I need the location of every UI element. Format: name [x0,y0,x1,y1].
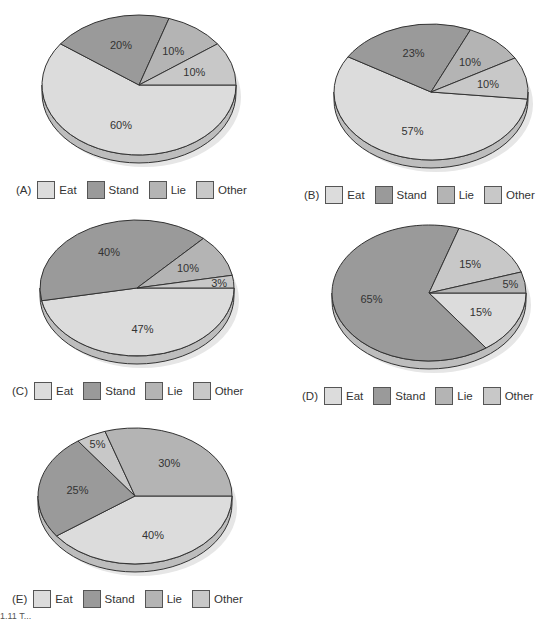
legend-swatch-other [196,181,214,199]
slice-label: 10% [177,262,199,274]
pie-chart-b: 57%23%10%10% [273,0,546,185]
pie-a-svg: 60%20%10%10% [0,0,273,180]
figure-caption: 1.11 T... [0,611,31,620]
legend-b: (B) Eat Stand Lie Other [304,186,545,204]
legend-label-lie: Lie [167,385,182,397]
legend-label-lie: Lie [167,593,182,605]
legend-e: (E) Eat Stand Lie Other [12,590,253,608]
legend-swatch-stand [87,181,105,199]
slice-label: 5% [502,278,518,290]
legend-swatch-eat [34,382,52,400]
slice-label: 10% [162,45,184,57]
slice-label: 23% [403,47,425,59]
panel-tag-c: (C) [12,385,28,397]
slice-label: 57% [401,125,423,137]
legend-label-lie: Lie [459,189,474,201]
slice-label: 15% [459,258,481,270]
legend-label-eat: Eat [347,189,364,201]
pie-c-svg: 47%40%10%3% [0,205,273,380]
slice-label: 3% [211,277,227,289]
legend-label-stand: Stand [109,184,139,196]
slice-label: 5% [90,438,106,450]
pie-chart-d: 15%65%15%5% [273,205,546,385]
slice-label: 10% [183,66,205,78]
pie-chart-c: 47%40%10%3% [0,205,273,380]
legend-swatch-lie [149,181,167,199]
legend-label-other: Other [218,184,247,196]
slice-label: 40% [142,529,164,541]
legend-c: (C) Eat Stand Lie Other [12,382,253,400]
legend-swatch-eat [324,387,342,405]
slice-label: 60% [110,119,132,131]
legend-swatch-stand [83,590,101,608]
slice-label: 25% [67,484,89,496]
slice-label: 10% [459,56,481,68]
panel-tag-a: (A) [16,184,31,196]
legend-d: (D) Eat Stand Lie Other [302,387,543,405]
pie-e-svg: 40%25%5%30% [0,410,273,590]
panel-tag-b: (B) [304,189,319,201]
slice-label: 10% [477,78,499,90]
legend-label-other: Other [506,189,535,201]
panel-tag-d: (D) [302,390,318,402]
legend-swatch-stand [373,387,391,405]
slice-label: 30% [158,457,180,469]
legend-label-other: Other [505,390,534,402]
legend-label-eat: Eat [56,385,73,397]
legend-swatch-other [192,590,210,608]
legend-label-stand: Stand [397,189,427,201]
panel-tag-e: (E) [12,593,27,605]
legend-label-stand: Stand [105,385,135,397]
legend-swatch-eat [33,590,51,608]
slice-label: 20% [110,39,132,51]
slice-label: 15% [470,306,492,318]
legend-swatch-lie [435,387,453,405]
legend-label-stand: Stand [395,390,425,402]
pie-b-svg: 57%23%10%10% [273,0,546,185]
legend-swatch-other [483,387,501,405]
legend-label-other: Other [214,593,243,605]
legend-label-stand: Stand [105,593,135,605]
legend-label-lie: Lie [457,390,472,402]
legend-swatch-stand [375,186,393,204]
legend-label-eat: Eat [59,184,76,196]
slice-label: 47% [131,323,153,335]
pie-d-svg: 15%65%15%5% [273,205,546,385]
legend-swatch-eat [325,186,343,204]
legend-swatch-stand [83,382,101,400]
legend-label-lie: Lie [171,184,186,196]
legend-swatch-lie [145,590,163,608]
legend-a: (A) Eat Stand Lie Other [16,181,257,199]
legend-swatch-lie [145,382,163,400]
pie-chart-e: 40%25%5%30% [0,410,273,590]
slice-label: 40% [98,246,120,258]
legend-swatch-other [484,186,502,204]
legend-label-other: Other [215,385,244,397]
legend-swatch-eat [37,181,55,199]
pie-chart-a: 60%20%10%10% [0,0,273,180]
slice-label: 65% [361,293,383,305]
legend-swatch-other [193,382,211,400]
legend-swatch-lie [437,186,455,204]
legend-label-eat: Eat [346,390,363,402]
legend-label-eat: Eat [55,593,72,605]
